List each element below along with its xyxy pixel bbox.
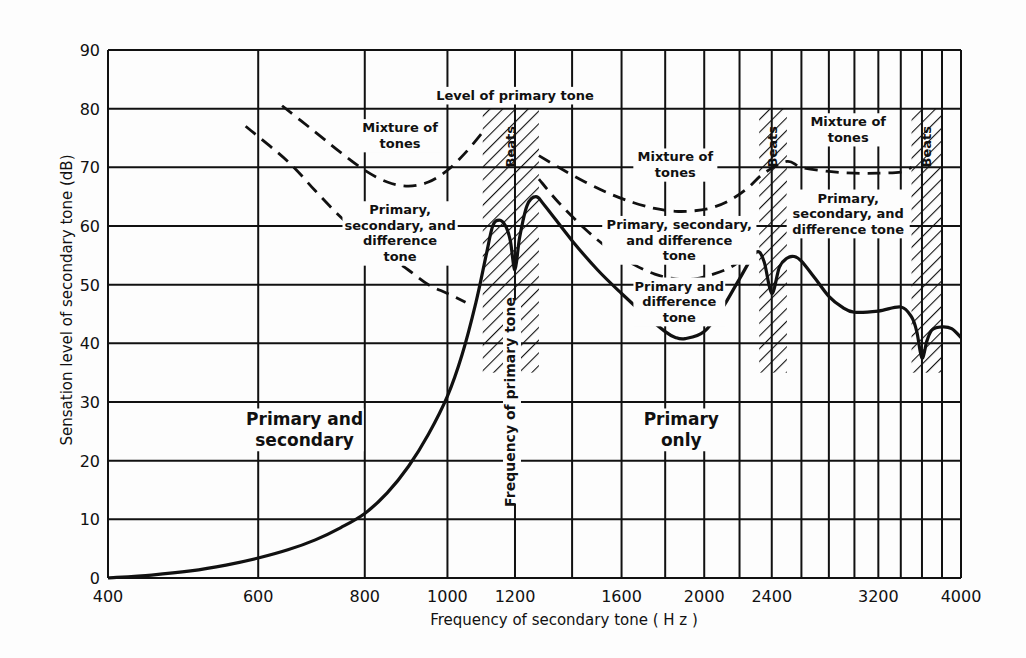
region-annotation: Primary andsecondary [245, 408, 363, 451]
region-annotation: Mixture oftones [806, 113, 890, 146]
svg-text:difference tone: difference tone [792, 222, 904, 237]
y-tick-label: 0 [90, 569, 100, 588]
region-annotation: Primary,secondary, anddifference tone [787, 190, 910, 239]
region-annotation: Frequency of primary tone [502, 297, 521, 507]
y-tick-label: 40 [80, 334, 100, 353]
y-tick-label: 30 [80, 393, 100, 412]
svg-text:Frequency of primary tone: Frequency of primary tone [502, 297, 518, 507]
y-tick-label: 70 [80, 158, 100, 177]
x-tick-label: 400 [93, 587, 124, 606]
y-axis-label: Sensation level of secondary tone (dB) [58, 154, 76, 445]
svg-text:Mixture of: Mixture of [638, 149, 714, 164]
svg-text:secondary, and: secondary, and [344, 218, 455, 233]
svg-text:secondary, and: secondary, and [793, 206, 904, 221]
svg-text:Primary, secondary,: Primary, secondary, [607, 217, 752, 232]
y-tick-label: 80 [80, 100, 100, 119]
region-annotation: Mixture oftones [633, 148, 717, 181]
x-tick-label: 2400 [751, 587, 792, 606]
svg-text:Mixture of: Mixture of [810, 114, 886, 129]
svg-text:Primary: Primary [644, 409, 719, 429]
svg-text:difference: difference [363, 233, 437, 248]
y-tick-label: 90 [80, 41, 100, 60]
svg-text:Primary,: Primary, [369, 202, 431, 217]
y-tick-label: 20 [80, 452, 100, 471]
x-tick-label: 800 [350, 587, 381, 606]
region-annotation: Mixture oftones [358, 119, 442, 152]
svg-text:Level of primary tone: Level of primary tone [436, 88, 594, 103]
svg-text:Primary,: Primary, [817, 191, 879, 206]
region-annotation: Primary,secondary, anddifferencetone [342, 201, 457, 265]
masking-chart: BeatsBeatsBeats Level of primary toneMix… [0, 0, 1026, 658]
svg-text:tones: tones [828, 130, 869, 145]
y-tick-label: 60 [80, 217, 100, 236]
svg-text:tone: tone [663, 248, 696, 263]
region-annotation: Primary, secondary,and differencetone [602, 216, 756, 265]
svg-text:only: only [661, 430, 702, 450]
x-tick-label: 3200 [858, 587, 899, 606]
svg-text:secondary: secondary [255, 430, 354, 450]
svg-text:Mixture of: Mixture of [362, 120, 438, 135]
x-tick-label: 1600 [601, 587, 642, 606]
x-tick-label: 1000 [427, 587, 468, 606]
region-annotation: Level of primary tone [430, 87, 600, 105]
svg-text:difference: difference [642, 294, 716, 309]
svg-text:tone: tone [383, 249, 416, 264]
svg-text:tone: tone [663, 310, 696, 325]
y-tick-label: 10 [80, 510, 100, 529]
svg-text:Primary and: Primary and [246, 409, 363, 429]
x-tick-label: 1200 [495, 587, 536, 606]
region-annotation: Primaryonly [643, 408, 720, 451]
annotations: Level of primary toneMixture oftonesPrim… [245, 87, 909, 507]
x-tick-label: 600 [243, 587, 274, 606]
svg-text:tones: tones [655, 165, 696, 180]
x-axis-label: Frequency of secondary tone ( H z ) [430, 611, 698, 629]
svg-text:Primary and: Primary and [635, 279, 724, 294]
region-annotation: Primary anddifferencetone [633, 278, 725, 327]
svg-text:and difference: and difference [626, 233, 732, 248]
x-tick-label: 4000 [941, 587, 982, 606]
y-tick-label: 50 [80, 276, 100, 295]
svg-text:tones: tones [380, 136, 421, 151]
x-tick-label: 2000 [684, 587, 725, 606]
